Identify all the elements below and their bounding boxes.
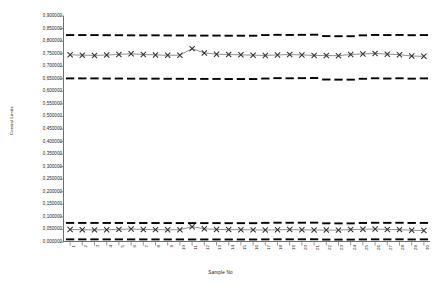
plot-area (64, 16, 430, 242)
x-tick-label: 21 (316, 245, 320, 250)
x-tick-label: 26 (377, 245, 381, 250)
y-tick-label: 0,150000 (22, 202, 62, 207)
x-tick-label: 5 (121, 245, 125, 248)
y-tick-label: 0,550000 (22, 102, 62, 107)
y-tick-label: 0,350000 (22, 152, 62, 157)
y-tick-label: 0,600000 (22, 89, 62, 94)
y-tick-label: 0,050000 (22, 227, 62, 232)
x-tick-label: 7 (145, 245, 149, 248)
y-tick-label: 0,100000 (22, 215, 62, 220)
y-tick-label: 0,250000 (22, 177, 62, 182)
y-tick-label: 0,200000 (22, 190, 62, 195)
x-tick-label: 15 (243, 245, 247, 250)
y-tick-label: 0,800000 (22, 39, 62, 44)
x-tick-label: 22 (328, 245, 332, 250)
y-tick-label: 0,900000 (22, 14, 62, 19)
x-tick-label: 12 (206, 245, 210, 250)
x-tick-label: 2 (84, 245, 88, 248)
x-tick-label: 1 (72, 245, 76, 248)
x-tick-label: 11 (194, 245, 198, 250)
x-tick-label: 17 (267, 245, 271, 250)
x-tick-label: 6 (133, 245, 137, 248)
y-tick-label: 0,000000 (22, 240, 62, 245)
x-tick-label: 19 (292, 245, 296, 250)
x-tick-label: 8 (157, 245, 161, 248)
x-tick-label: 20 (304, 245, 308, 250)
x-tick-label: 29 (414, 245, 418, 250)
x-tick-label: 14 (231, 245, 235, 250)
y-tick-label: 0,500000 (22, 114, 62, 119)
x-tick-label: 28 (401, 245, 405, 250)
x-tick-label: 27 (389, 245, 393, 250)
y-axis-title: Central Limits (9, 81, 14, 161)
data-series-layer (64, 16, 430, 242)
x-tick-label: 23 (340, 245, 344, 250)
x-axis-title: Sample No (0, 270, 441, 275)
x-tick-label: 24 (353, 245, 357, 250)
y-tick-label: 0,750000 (22, 51, 62, 56)
control-chart-figure: Central Limits 0,9000000,8500000,8000000… (0, 0, 441, 289)
x-tick-label: 18 (279, 245, 283, 250)
x-tick-label: 9 (170, 245, 174, 248)
y-tick-label: 0,700000 (22, 64, 62, 69)
y-tick-label: 0,400000 (22, 139, 62, 144)
x-tick-label: 16 (255, 245, 259, 250)
x-tick-label: 25 (365, 245, 369, 250)
y-tick-label: 0,450000 (22, 127, 62, 132)
x-tick-label: 10 (182, 245, 186, 250)
y-axis-tick-labels: 0,9000000,8500000,8000000,7500000,700000… (22, 0, 62, 289)
x-tick-label: 3 (96, 245, 100, 248)
y-tick-label: 0,650000 (22, 77, 62, 82)
y-tick-label: 0,300000 (22, 164, 62, 169)
x-tick-label: 30 (426, 245, 430, 250)
x-tick-label: 13 (218, 245, 222, 250)
x-tick-label: 4 (109, 245, 113, 248)
x-axis-tick-labels: 1234567891011121314151617181920212223242… (64, 244, 430, 268)
y-tick-label: 0,850000 (22, 26, 62, 31)
